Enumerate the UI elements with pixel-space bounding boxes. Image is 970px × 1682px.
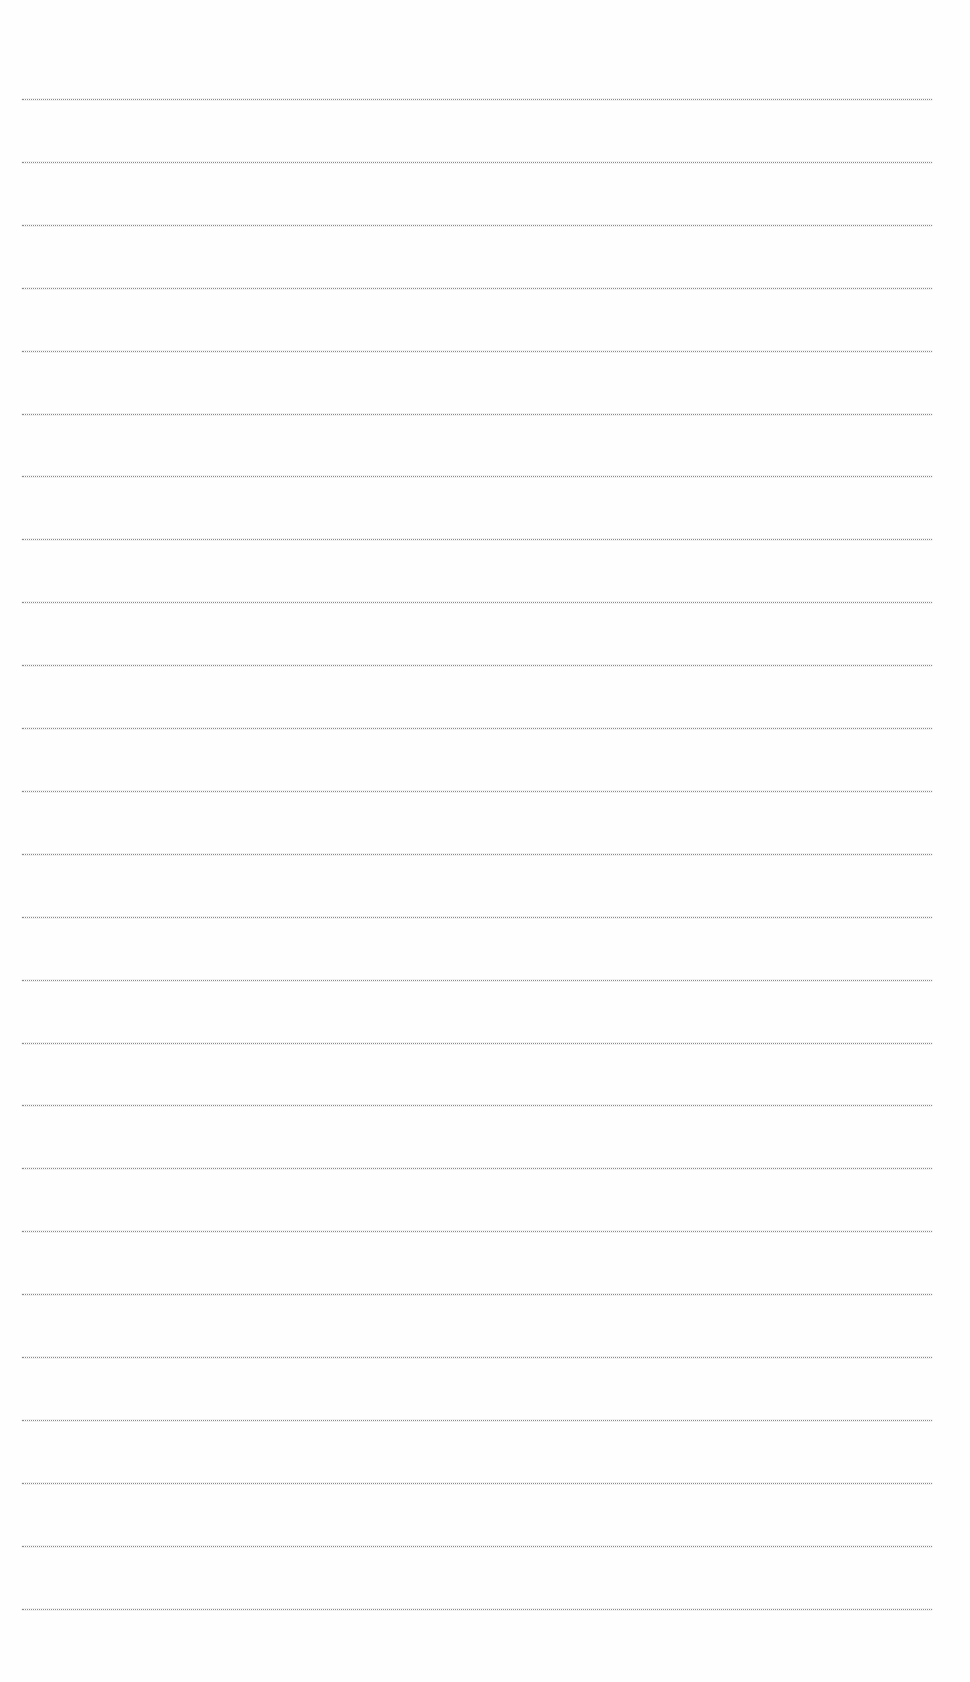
ruled-line: [22, 414, 932, 415]
ruled-line: [22, 162, 932, 163]
ruled-line: [22, 1105, 932, 1106]
ruled-line: [22, 1168, 932, 1169]
ruled-line: [22, 539, 932, 540]
ruled-line: [22, 917, 932, 918]
ruled-line: [22, 791, 932, 792]
ruled-line: [22, 1609, 932, 1610]
ruled-line: [22, 1483, 932, 1484]
ruled-line: [22, 1231, 932, 1232]
ruled-line: [22, 225, 932, 226]
ruled-line: [22, 665, 932, 666]
ruled-line: [22, 854, 932, 855]
ruled-line: [22, 288, 932, 289]
ruled-line: [22, 1043, 932, 1044]
ruled-line: [22, 1546, 932, 1547]
ruled-line: [22, 602, 932, 603]
ruled-line: [22, 476, 932, 477]
ruled-line: [22, 1420, 932, 1421]
ruled-line: [22, 351, 932, 352]
ruled-line: [22, 99, 932, 100]
ruled-line: [22, 1294, 932, 1295]
ruled-paper-sheet: [0, 0, 970, 1682]
ruled-line: [22, 980, 932, 981]
ruled-line: [22, 728, 932, 729]
ruled-line: [22, 1357, 932, 1358]
